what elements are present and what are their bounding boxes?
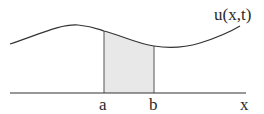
curve-label: u(x,t) bbox=[214, 5, 251, 24]
axis-label: x bbox=[240, 95, 249, 114]
upper-bound-label: b bbox=[149, 95, 158, 114]
diagram-canvas: u(x,t) a b x bbox=[0, 0, 264, 114]
shaded-region bbox=[104, 31, 154, 93]
lower-bound-label: a bbox=[99, 95, 107, 114]
